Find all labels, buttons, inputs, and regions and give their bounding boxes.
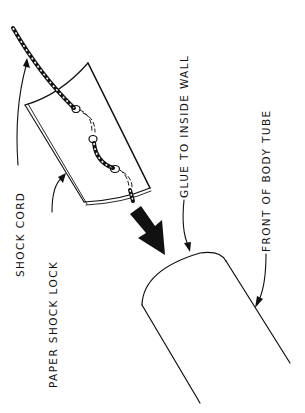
shock-cord-leader bbox=[17, 58, 30, 165]
label-shock-cord: SHOCK CORD bbox=[14, 192, 26, 277]
label-paper-shock-lock: PAPER SHOCK LOCK bbox=[47, 261, 59, 388]
label-front-of-body-tube: FRONT OF BODY TUBE bbox=[260, 109, 272, 252]
insertion-arrow-icon bbox=[130, 206, 165, 255]
paper-shock-lock-leader bbox=[52, 173, 66, 212]
front-body-tube-leader bbox=[255, 254, 266, 308]
label-glue-to-inside-wall: GLUE TO INSIDE WALL bbox=[178, 55, 190, 198]
shock-lock-diagram: SHOCK CORD PAPER SHOCK LOCK GLUE TO INSI… bbox=[0, 0, 305, 413]
glue-leader bbox=[183, 200, 191, 252]
body-tube bbox=[142, 252, 290, 403]
